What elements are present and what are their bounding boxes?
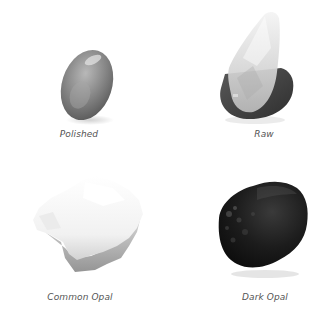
common-opal-image [25,172,150,282]
dark-opal-image [213,174,313,278]
raw-opal-image [213,8,298,126]
specimen-common-opal: Common Opal [0,160,163,323]
specimen-polished: Polished [0,0,163,160]
specimen-raw: Raw [163,0,325,160]
caption-dark-opal: Dark Opal [242,292,288,302]
caption-common-opal: Common Opal [47,292,112,302]
polished-opal-image [50,40,125,130]
caption-raw: Raw [254,129,273,139]
specimen-dark-opal: Dark Opal [163,160,325,323]
caption-polished: Polished [60,129,98,139]
